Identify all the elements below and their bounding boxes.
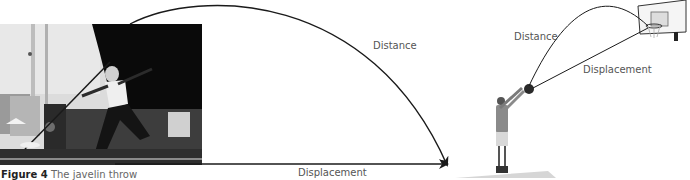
diagram-figure: Distance Displacement Distance Displacem… xyxy=(0,0,690,180)
figure-caption: Figure 4 The javelin throw xyxy=(1,169,137,180)
basketball-player xyxy=(496,88,524,173)
basketball-distance-label: Distance xyxy=(514,31,558,42)
javelin-displacement-label: Displacement xyxy=(298,167,367,178)
arrows-layer xyxy=(0,0,690,180)
basketball-displacement-label: Displacement xyxy=(583,64,652,75)
basketball-hoop xyxy=(638,0,686,41)
figure-number: Figure 4 xyxy=(1,169,48,180)
figure-title: The javelin throw xyxy=(51,169,137,180)
javelin-distance-arc xyxy=(130,5,447,165)
javelin-distance-label: Distance xyxy=(373,40,417,51)
